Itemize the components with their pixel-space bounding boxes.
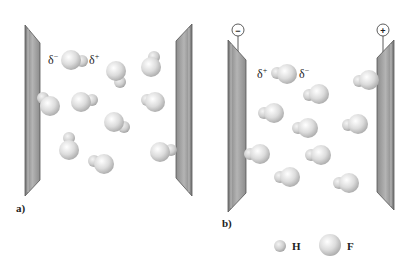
hf-molecule: [71, 92, 98, 112]
dipole-label-left: δ+: [257, 66, 268, 81]
plus-sign-icon: +: [380, 26, 385, 36]
minus-sign-icon: −: [235, 26, 240, 36]
hf-molecule: [274, 167, 300, 187]
fluorine-sphere-icon: [319, 234, 341, 256]
legend-label-h: H: [292, 240, 301, 252]
panel-label-a: a): [16, 202, 26, 215]
right-plate-positive: [377, 40, 394, 210]
hf-molecule: [104, 112, 130, 133]
dipole-label-right: δ−: [299, 66, 310, 81]
hf-molecule: [141, 92, 165, 112]
hf-molecule: [258, 103, 284, 123]
right-plate: [176, 24, 192, 196]
panel-label-b: b): [222, 217, 232, 230]
panel-a: δ− δ+ a): [16, 24, 192, 215]
hf-molecule: [88, 154, 114, 174]
hf-molecule: [61, 50, 88, 70]
hf-molecule: [333, 173, 359, 193]
legend: H F: [274, 234, 354, 256]
hydrogen-sphere-icon: [274, 240, 286, 252]
hf-molecule: [141, 51, 161, 77]
hf-molecule: [59, 132, 79, 160]
dipole-label-left: δ−: [48, 52, 59, 67]
hf-molecule: [150, 142, 177, 162]
hf-molecule: [303, 84, 329, 104]
hf-molecule: [292, 118, 318, 138]
hf-molecule: [342, 114, 368, 134]
left-plate-negative: [228, 40, 246, 212]
hf-molecule: [353, 70, 379, 90]
dipole-label-right: δ+: [89, 52, 100, 67]
hf-molecule: [305, 145, 331, 165]
hf-molecule: [244, 144, 270, 164]
hf-dipole-diagram: δ− δ+ a) − +: [0, 0, 411, 263]
hf-molecule: [37, 92, 60, 116]
hf-molecule: [271, 64, 297, 84]
panel-b: − + δ+ δ− b): [222, 24, 394, 230]
hf-molecule: [106, 61, 126, 88]
left-plate: [25, 25, 40, 196]
legend-label-f: F: [347, 240, 354, 252]
